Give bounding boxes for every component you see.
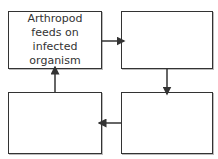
arrows-layer <box>0 0 218 159</box>
